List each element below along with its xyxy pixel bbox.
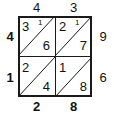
- right-label-1: 6: [97, 71, 109, 84]
- bottom-label-1: 8: [67, 100, 80, 113]
- left-label-0: 4: [4, 30, 16, 43]
- cell-lower-digit: 4: [43, 80, 50, 93]
- lattice-multiplication-figure: 4 3 4 1 9 6 2 8 3 1 6 2 1 7 2 4: [0, 0, 114, 118]
- cell-lower-digit: 6: [43, 39, 50, 52]
- lattice-cell-top-right: 2 1 7: [55, 16, 92, 56]
- cell-lower-digit: 7: [80, 39, 87, 52]
- right-label-0: 9: [97, 30, 109, 43]
- lattice-cell-bottom-left: 2 4: [18, 57, 55, 97]
- top-label-0: 4: [30, 1, 43, 14]
- cell-carry-digit: 1: [38, 19, 42, 27]
- lattice-cell-bottom-right: 1 8: [55, 57, 92, 97]
- top-label-1: 3: [67, 1, 80, 14]
- cell-carry-digit: 1: [75, 19, 79, 27]
- cell-upper-digit: 3: [22, 20, 29, 33]
- cell-upper-digit: 1: [59, 61, 66, 74]
- left-label-1: 1: [4, 71, 16, 84]
- bottom-label-0: 2: [30, 100, 43, 113]
- cell-upper-digit: 2: [59, 20, 66, 33]
- lattice-cell-top-left: 3 1 6: [18, 16, 55, 56]
- cell-upper-digit: 2: [22, 61, 29, 74]
- cell-lower-digit: 8: [80, 80, 87, 93]
